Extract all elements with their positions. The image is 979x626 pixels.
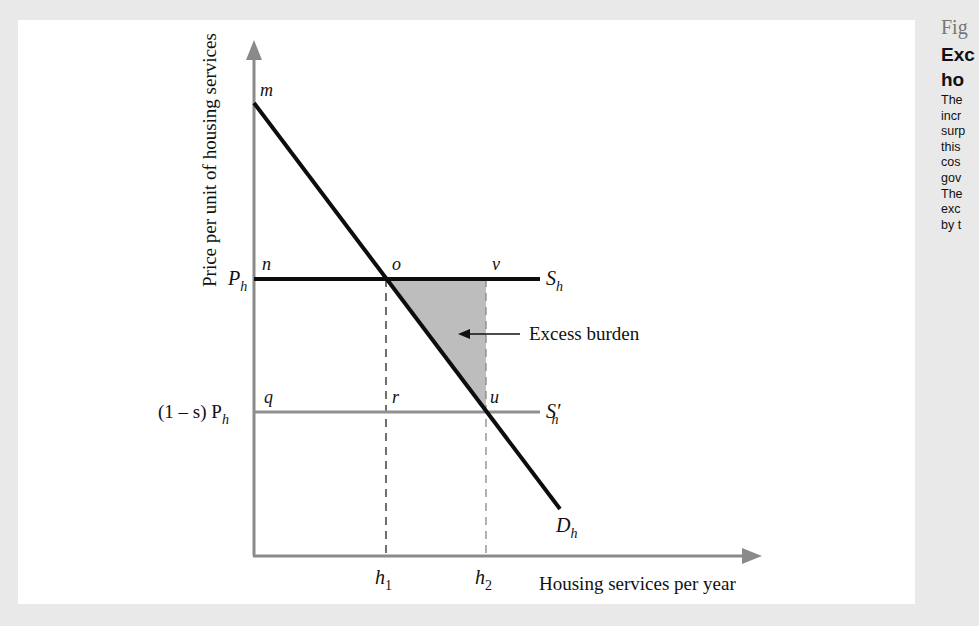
title-line: ho [941, 67, 975, 92]
point-label-n: n [262, 254, 271, 274]
body-line: this [941, 140, 965, 156]
xtick-h1: h1 [375, 566, 392, 593]
ytick-subsidized-ph: (1 – s) Ph [158, 401, 229, 427]
body-line: gov [941, 171, 965, 187]
point-label-m: m [260, 80, 273, 100]
x-axis-arrow-icon [742, 548, 762, 564]
body-line: exc [941, 202, 965, 218]
point-label-v: v [492, 254, 500, 274]
body-line: cos [941, 155, 965, 171]
point-label-u: u [490, 387, 499, 407]
body-line: The [941, 93, 965, 109]
figure-caption: Fig Exc ho The incr surp this cos gov Th… [941, 0, 979, 626]
point-label-o: o [392, 254, 401, 274]
body-line: The [941, 187, 965, 203]
body-line: surp [941, 124, 965, 140]
label-sh: Sh [546, 267, 563, 294]
figure-title: Exc ho [941, 42, 975, 92]
title-line: Exc [941, 42, 975, 67]
y-axis-label: Price per unit of housing services [199, 33, 220, 287]
point-label-q: q [264, 387, 273, 407]
y-axis-arrow-icon [246, 40, 262, 60]
xtick-h2: h2 [475, 566, 492, 593]
x-axis-label: Housing services per year [539, 573, 736, 594]
body-line: by t [941, 218, 965, 234]
body-line: incr [941, 109, 965, 125]
figure-description: The incr surp this cos gov The exc by t [941, 93, 965, 233]
label-dh: Dh [555, 514, 577, 541]
demand-line-dh [254, 103, 560, 509]
excess-burden-label: Excess burden [529, 323, 640, 344]
figure-number: Fig [941, 16, 968, 39]
label-sh-prime: S′h [546, 400, 561, 427]
ytick-ph: Ph [227, 267, 247, 294]
point-label-r: r [392, 387, 400, 407]
